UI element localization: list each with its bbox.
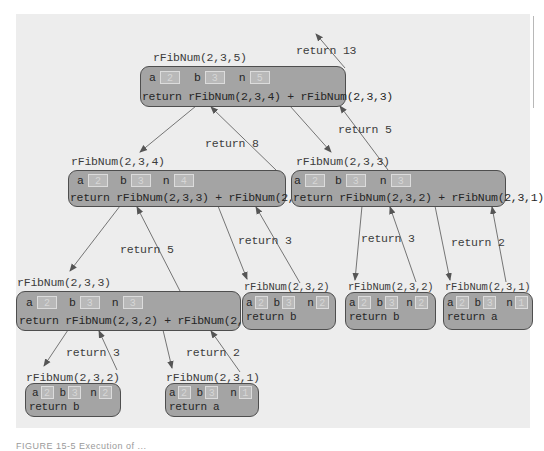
var-label-a: a [294,174,301,187]
value-box-b: 3 [346,174,366,187]
frame-n1-a: a2 b3 n1 return a [443,292,533,330]
value-box-b: 3 [80,296,100,309]
frame-vars: a2 b3 n5 [149,71,280,84]
value-box-n: 1 [239,386,252,399]
var-label-b: b [194,71,201,84]
frame-n1-b: a2 b3 n1 return a [165,383,259,417]
call-label-n4: rFibNum(2,3,4) [71,155,165,168]
return-label-n2-c: return 3 [66,346,120,359]
var-label-a: a [77,174,84,187]
frame-vars: a2 b3 n1 [169,386,252,399]
frame-vars: a2 b3 n3 [294,174,421,187]
var-label-n: n [239,71,246,84]
var-label-b: b [197,387,204,399]
return-label-n4: return 8 [205,137,259,150]
value-box-n: 2 [415,296,428,309]
return-label-n1-b: return 2 [186,346,240,359]
var-label-n: n [406,297,413,309]
value-box-n: 3 [123,296,143,309]
var-label-a: a [169,387,176,399]
frame-n2-c: a2 b3 n2 return b [25,383,121,417]
var-label-a: a [32,387,39,399]
var-label-b: b [60,387,67,399]
frame-n3-right: a2 b3 n3 return rFibNum(2,3,2) + rFibNum… [291,170,506,207]
frame-vars: a2 b3 n2 [349,296,428,309]
return-label-n2-b: return 3 [361,232,415,245]
frame-n2-a: a2 b3 n2 return b [242,292,336,330]
value-box-b: 3 [282,296,295,309]
figure-caption: FIGURE 15-5 Execution of ... [16,441,147,451]
frame-statement: return rFibNum(2,3,2) + rFibNum(2,3,1) [19,314,270,327]
call-label-n3-right: rFibNum(2,3,3) [296,155,390,168]
return-label-n3-right: return 5 [338,123,392,136]
frame-statement: return rFibNum(2,3,3) + rFibNum(2,3,2) [70,191,321,204]
frame-root: a2 b3 n5 return rFibNum(2,3,4) + rFibNum… [140,66,346,107]
value-box-b: 3 [483,296,496,309]
frame-vars: a2 b3 n2 [32,386,112,399]
frame-n4: a2 b3 n4 return rFibNum(2,3,3) + rFibNum… [68,170,286,207]
frame-vars: a2 b3 n3 [26,296,153,309]
value-box-a: 2 [160,71,180,84]
frame-n2-b: a2 b3 n2 return b [345,292,436,330]
value-box-a: 2 [41,386,54,399]
return-label-root: return 13 [296,44,356,57]
var-label-n: n [380,174,387,187]
frame-statement: return rFibNum(2,3,2) + rFibNum(2,3,1) [293,191,544,204]
value-box-a: 2 [305,174,325,187]
var-label-b: b [274,297,281,309]
var-label-b: b [335,174,342,187]
value-box-a: 2 [255,296,268,309]
frame-statement: return rFibNum(2,3,4) + rFibNum(2,3,3) [142,90,393,103]
value-box-b: 3 [68,386,81,399]
var-label-b: b [377,297,384,309]
value-box-b: 3 [131,174,151,187]
return-label-n3-left: return 5 [120,243,174,256]
value-box-a: 2 [178,386,191,399]
value-box-a: 2 [88,174,108,187]
var-label-a: a [26,296,33,309]
frame-statement: return b [246,311,296,323]
frame-statement: return b [349,311,399,323]
var-label-n: n [230,387,237,399]
value-box-b: 3 [205,386,218,399]
value-box-n: 4 [174,174,194,187]
frame-vars: a2 b3 n2 [246,296,329,309]
value-box-n: 2 [99,386,112,399]
value-box-b: 3 [385,296,398,309]
var-label-n: n [506,297,513,309]
frame-statement: return b [29,401,79,413]
var-label-n: n [90,387,97,399]
frame-statement: return a [447,311,497,323]
value-box-b: 3 [205,71,225,84]
var-label-n: n [307,297,314,309]
return-label-n2-a: return 3 [238,234,292,247]
frame-vars: a2 b3 n1 [447,296,528,309]
frame-n3-left: a2 b3 n3 return rFibNum(2,3,2) + rFibNum… [16,291,241,331]
value-box-n: 3 [391,174,411,187]
frame-statement: return a [169,401,219,413]
value-box-a: 2 [358,296,371,309]
value-box-a: 2 [456,296,469,309]
value-box-n: 2 [316,296,329,309]
var-label-b: b [475,297,482,309]
var-label-a: a [349,297,356,309]
var-label-a: a [447,297,454,309]
var-label-b: b [120,174,127,187]
call-label-root: rFibNum(2,3,5) [153,51,247,64]
value-box-n: 5 [250,71,270,84]
var-label-n: n [163,174,170,187]
var-label-a: a [246,297,253,309]
value-box-n: 1 [515,296,528,309]
frame-vars: a2 b3 n4 [77,174,204,187]
var-label-a: a [149,71,156,84]
var-label-b: b [69,296,76,309]
call-label-n3-left: rFibNum(2,3,3) [17,276,111,289]
return-label-n1-a: return 2 [451,236,505,249]
value-box-a: 2 [37,296,57,309]
var-label-n: n [112,296,119,309]
